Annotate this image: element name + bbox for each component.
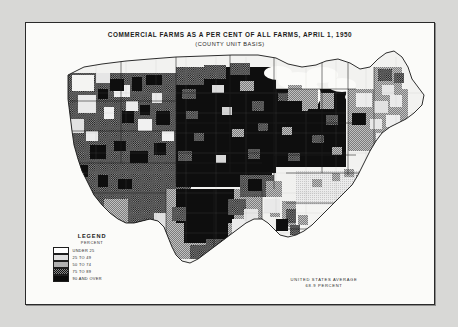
national-average-value: 68.9 PERCENT <box>264 283 384 289</box>
legend-label: 90 AND OVER <box>73 276 102 281</box>
map-plate-page: COMMERCIAL FARMS AS A PER CENT OF ALL FA… <box>0 0 458 327</box>
legend-label: 75 TO 89 <box>73 269 92 274</box>
legend-subheading: PERCENT <box>41 240 143 245</box>
legend-label: 25 TO 49 <box>73 255 92 260</box>
legend-label: 50 TO 74 <box>73 262 92 267</box>
legend-heading: LEGEND <box>41 233 143 239</box>
legend-item: 25 TO 49 <box>53 254 143 260</box>
map-plate: COMMERCIAL FARMS AS A PER CENT OF ALL FA… <box>25 22 435 305</box>
national-average-note: UNITED STATES AVERAGE 68.9 PERCENT <box>264 277 384 288</box>
legend: LEGEND PERCENT UNDER 25 25 TO 49 50 TO 7… <box>53 233 143 282</box>
map-title: COMMERCIAL FARMS AS A PER CENT OF ALL FA… <box>26 31 434 38</box>
legend-item: 75 TO 89 <box>53 268 143 274</box>
legend-label: UNDER 25 <box>73 248 95 253</box>
legend-item: 90 AND OVER <box>53 275 143 281</box>
legend-swatch-90-and-over <box>53 275 69 282</box>
legend-item: UNDER 25 <box>53 247 143 253</box>
legend-item: 50 TO 74 <box>53 261 143 267</box>
map-subtitle: (COUNTY UNIT BASIS) <box>26 41 434 47</box>
title-block: COMMERCIAL FARMS AS A PER CENT OF ALL FA… <box>26 31 434 47</box>
